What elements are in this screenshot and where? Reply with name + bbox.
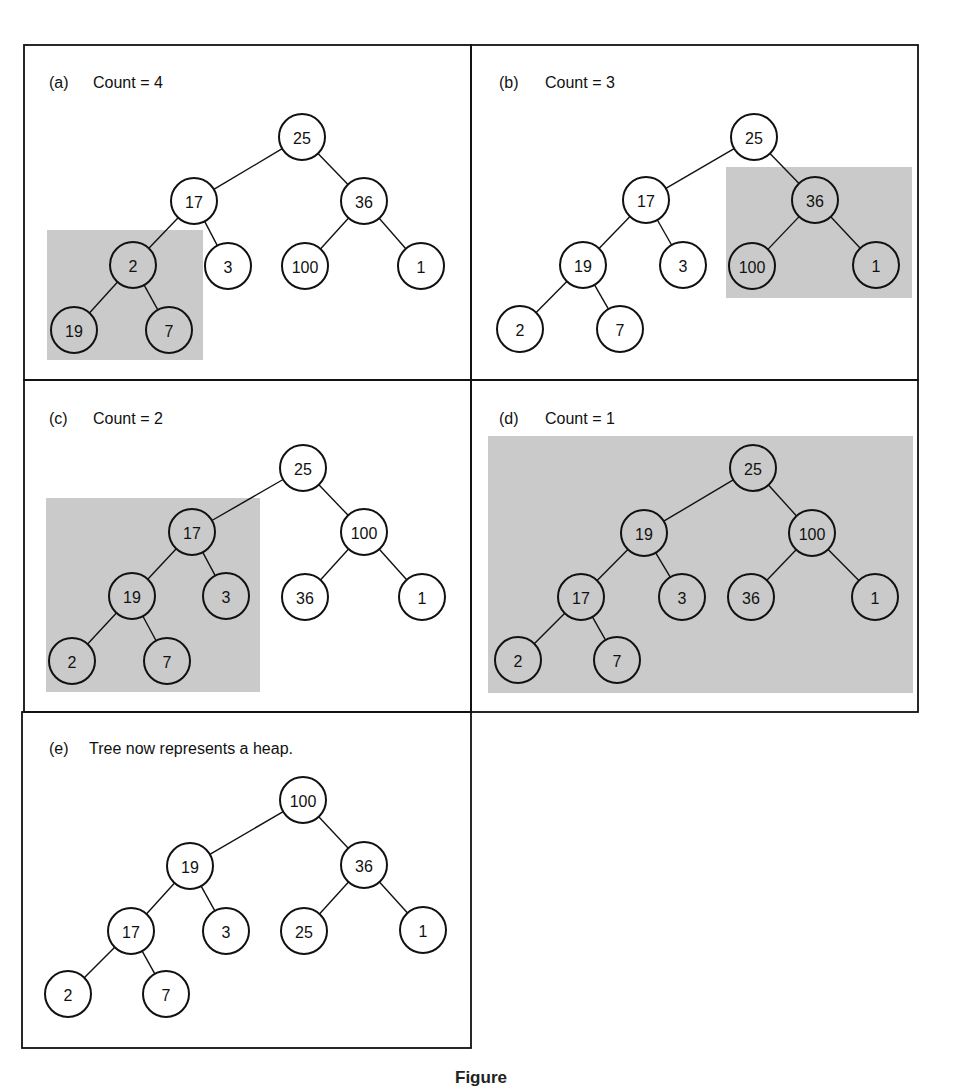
node-value: 17 (122, 924, 140, 941)
node-value: 1 (419, 923, 428, 940)
tree-node: 17 (108, 908, 154, 954)
node-value: 19 (574, 258, 592, 275)
panel-d: (d)Count = 1251910017336127 (471, 380, 918, 712)
node-value: 1 (871, 590, 880, 607)
tree-node: 1 (400, 907, 446, 953)
node-value: 17 (637, 193, 655, 210)
tree-node: 1 (399, 574, 445, 620)
tree-node: 25 (279, 114, 325, 160)
node-value: 7 (616, 322, 625, 339)
tree-node: 100 (729, 243, 775, 289)
node-value: 36 (355, 858, 373, 875)
tree-node: 3 (205, 243, 251, 289)
tree-edge (379, 218, 406, 248)
tree-node: 1 (852, 574, 898, 620)
highlighted-subtree-box (488, 436, 913, 693)
tree-node: 100 (789, 510, 835, 556)
tree-node: 25 (731, 114, 777, 160)
tree-edge (319, 485, 348, 516)
panel-caption-text: Count = 3 (545, 74, 615, 91)
tree-edge (320, 549, 348, 580)
node-value: 36 (355, 194, 373, 211)
node-value: 1 (417, 259, 426, 276)
node-value: 17 (185, 194, 203, 211)
node-value: 100 (799, 526, 826, 543)
tree-node: 36 (341, 178, 387, 224)
tree-edge (319, 817, 349, 848)
panel-label: (b) (499, 74, 519, 91)
node-value: 1 (872, 258, 881, 275)
tree-edge (214, 149, 282, 190)
tree-node: 19 (621, 510, 667, 556)
panel-caption-text: Count = 1 (545, 410, 615, 427)
node-value: 17 (183, 525, 201, 542)
tree-edge (536, 281, 567, 312)
tree-edge (379, 882, 407, 913)
panel-e: (e)Tree now represents a heap.1001936173… (22, 712, 471, 1048)
tree-edge (666, 149, 734, 189)
tree-node: 100 (282, 243, 328, 289)
tree-node: 17 (623, 177, 669, 223)
tree-node: 19 (560, 242, 606, 288)
node-value: 3 (679, 258, 688, 275)
node-value: 19 (65, 323, 83, 340)
panels-layer: (a)Count = 4251736231001197(b)Count = 32… (22, 45, 918, 1048)
tree-node: 3 (203, 908, 249, 954)
tree-node: 19 (109, 573, 155, 619)
tree-edge (599, 217, 630, 249)
tree-node: 1 (398, 243, 444, 289)
panel-label: (d) (499, 410, 519, 427)
tree-node: 100 (341, 509, 387, 555)
node-value: 100 (351, 525, 378, 542)
tree-node: 3 (203, 573, 249, 619)
tree-node: 2 (497, 306, 543, 352)
tree-node: 100 (280, 777, 326, 823)
tree-node: 7 (146, 307, 192, 353)
node-value: 25 (744, 461, 762, 478)
tree-edge (595, 285, 609, 309)
tree-edge (657, 220, 671, 245)
node-value: 3 (222, 589, 231, 606)
node-value: 2 (129, 258, 138, 275)
panel-caption-text: Count = 4 (93, 74, 163, 91)
node-value: 36 (806, 193, 824, 210)
panel-label: (c) (49, 410, 68, 427)
tree-edge (142, 951, 155, 974)
tree-edge (320, 218, 348, 249)
tree-node: 3 (659, 574, 705, 620)
tree-node: 19 (51, 307, 97, 353)
panel-caption-text: Tree now represents a heap. (89, 740, 293, 757)
tree-node: 2 (45, 971, 91, 1017)
tree-edge (318, 154, 348, 185)
tree-node: 19 (167, 843, 213, 889)
tree-node: 1 (853, 242, 899, 288)
node-value: 100 (739, 259, 766, 276)
tree-edge (146, 883, 174, 914)
tree-node: 36 (792, 177, 838, 223)
node-value: 17 (572, 590, 590, 607)
tree-node: 2 (495, 637, 541, 683)
node-value: 25 (295, 924, 313, 941)
tree-node: 7 (143, 971, 189, 1017)
tree-edge (205, 221, 218, 245)
node-value: 7 (165, 323, 174, 340)
panel-label: (e) (49, 740, 69, 757)
node-value: 2 (514, 653, 523, 670)
tree-node: 36 (282, 574, 328, 620)
node-value: 3 (224, 259, 233, 276)
node-value: 2 (64, 987, 73, 1004)
panel-label: (a) (49, 74, 69, 91)
tree-node: 17 (171, 178, 217, 224)
tree-node: 25 (280, 445, 326, 491)
tree-node: 36 (341, 842, 387, 888)
node-value: 3 (678, 590, 687, 607)
node-value: 2 (68, 654, 77, 671)
tree-edge (84, 947, 114, 977)
node-value: 100 (290, 793, 317, 810)
node-value: 19 (635, 526, 653, 543)
tree-edge (210, 812, 283, 855)
tree-node: 25 (730, 445, 776, 491)
panel-c: (c)Count = 2251710019336127 (24, 380, 471, 712)
tree-node: 2 (110, 242, 156, 288)
